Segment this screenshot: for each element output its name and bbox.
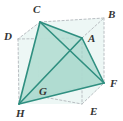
vertex-label-D: D <box>4 31 12 42</box>
geometry-canvas <box>0 0 123 121</box>
vertex-label-B: B <box>108 9 115 20</box>
vertex-label-H: H <box>16 108 25 119</box>
geometry-figure: C B D A F G E H <box>0 0 123 121</box>
vertex-label-F: F <box>110 78 117 89</box>
vertex-label-A: A <box>88 33 95 44</box>
vertex-label-G: G <box>39 86 47 97</box>
vertex-label-C: C <box>33 4 40 15</box>
vertex-label-E: E <box>90 106 97 117</box>
